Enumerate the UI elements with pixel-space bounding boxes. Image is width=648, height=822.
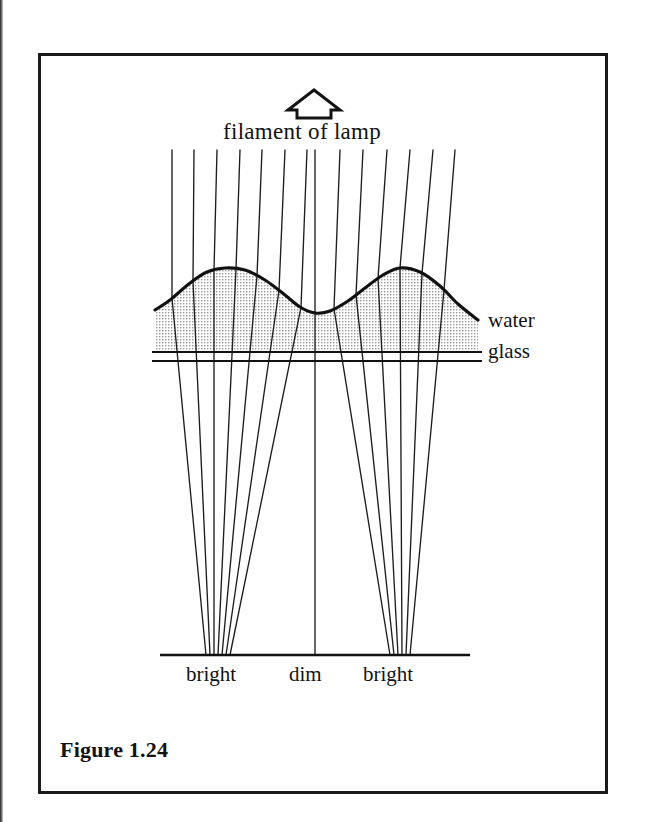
figure-caption: Figure 1.24	[60, 739, 168, 761]
light-ray	[230, 150, 307, 655]
light-ray	[378, 150, 398, 655]
label-dim: dim	[289, 664, 322, 685]
light-ray	[172, 150, 206, 655]
label-bright-left: bright	[186, 664, 236, 685]
light-rays-group	[172, 150, 455, 655]
light-ray	[400, 150, 410, 655]
up-arrow-icon	[288, 90, 340, 118]
light-ray	[406, 150, 433, 655]
label-filament-of-lamp: filament of lamp	[223, 120, 381, 143]
label-water: water	[488, 310, 535, 331]
light-ray	[193, 150, 210, 655]
light-ray	[214, 150, 217, 655]
label-bright-right: bright	[363, 664, 413, 685]
light-ray	[356, 150, 394, 655]
label-glass: glass	[488, 341, 530, 362]
light-ray	[226, 150, 285, 655]
water-body-fill	[155, 268, 478, 352]
light-ray	[222, 150, 262, 655]
